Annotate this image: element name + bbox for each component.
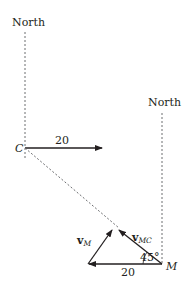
line-of-sight-dashed (25, 148, 119, 228)
angle-label: 45° (140, 251, 160, 264)
base-label: 20 (121, 266, 135, 279)
point-c-label: C (15, 142, 24, 155)
north-label-left: North (12, 16, 45, 29)
north-label-right: North (148, 96, 181, 109)
velocity-triangle: 20 45° vM vMC M (76, 230, 178, 279)
vector-vm-arrow (88, 230, 112, 264)
diagram-canvas: North North C 20 20 45° vM vMC M (0, 0, 185, 291)
vector-vm-label: vM (76, 234, 91, 248)
point-m-label: M (165, 260, 178, 273)
point-c-group: C 20 (15, 134, 102, 155)
velocity-c-label: 20 (55, 134, 69, 147)
north-reference-right: North (148, 96, 181, 264)
north-reference-left: North (12, 16, 45, 160)
vector-vmc-label: vMC (131, 231, 152, 245)
